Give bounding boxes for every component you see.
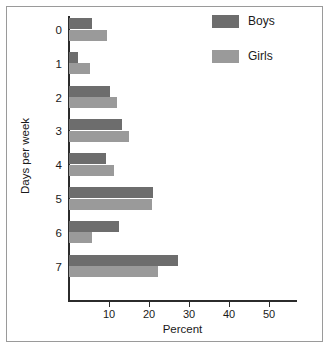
x-axis-tick-label: 30	[174, 308, 204, 320]
bar-boys-day-5	[69, 187, 153, 198]
chart-legend: Boys Girls	[0, 0, 330, 90]
x-axis-tick-label: 10	[94, 308, 124, 320]
bar-girls-day-7	[69, 266, 158, 277]
bar-boys-day-7	[69, 255, 178, 266]
bar-girls-day-6	[69, 232, 92, 243]
x-axis-tick	[149, 302, 150, 307]
x-axis-tick-label: 40	[214, 308, 244, 320]
legend-swatch-girls-icon	[212, 50, 239, 63]
y-axis-category-label: 6	[34, 227, 62, 239]
x-axis-tick-label: 50	[254, 308, 284, 320]
y-axis-category-label: 4	[34, 159, 62, 171]
y-axis-category-label: 5	[34, 193, 62, 205]
bar-boys-day-6	[69, 221, 119, 232]
x-axis-tick-label: 20	[134, 308, 164, 320]
bar-girls-day-4	[69, 165, 114, 176]
x-axis-tick	[109, 302, 110, 307]
legend-label-boys: Boys	[248, 14, 275, 28]
bar-girls-day-5	[69, 199, 152, 210]
x-axis-line	[68, 300, 297, 302]
bar-boys-day-3	[69, 119, 122, 130]
legend-label-girls: Girls	[248, 49, 273, 63]
x-axis-tick	[189, 302, 190, 307]
x-axis-title: Percent	[68, 323, 297, 335]
x-axis-tick	[229, 302, 230, 307]
y-axis-category-label: 3	[34, 125, 62, 137]
y-axis-category-label: 2	[34, 92, 62, 104]
bar-girls-day-3	[69, 131, 129, 142]
x-axis-tick	[269, 302, 270, 307]
chart-figure: Percent Days per week 102030405001234567…	[0, 0, 330, 349]
bar-girls-day-2	[69, 97, 117, 108]
y-axis-title: Days per week	[19, 86, 31, 226]
legend-swatch-boys-icon	[212, 15, 239, 28]
y-axis-category-label: 7	[34, 261, 62, 273]
legend-item-girls: Girls	[212, 49, 273, 63]
legend-item-boys: Boys	[212, 14, 275, 28]
bar-boys-day-4	[69, 153, 106, 164]
